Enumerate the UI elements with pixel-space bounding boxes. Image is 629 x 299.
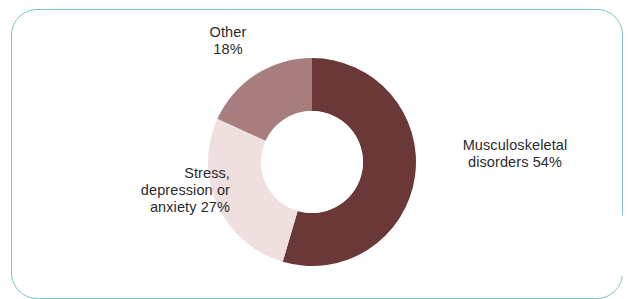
slice-label-musculoskeletal-line1: Musculoskeletal [420, 137, 610, 154]
donut-hole [261, 111, 363, 213]
slice-label-other: Other 18% [176, 24, 280, 58]
slice-label-musculoskeletal-line2: disorders 54% [420, 154, 610, 171]
slice-label-other-value: 18% [176, 41, 280, 58]
slice-label-musculoskeletal: Musculoskeletal disorders 54% [420, 137, 610, 171]
slice-label-stress-line2: depression or [96, 182, 230, 199]
slice-label-stress: Stress, depression or anxiety 27% [96, 165, 230, 216]
slice-label-other-name: Other [176, 24, 280, 41]
slice-label-stress-line1: Stress, [96, 165, 230, 182]
slice-label-stress-line3: anxiety 27% [96, 199, 230, 216]
